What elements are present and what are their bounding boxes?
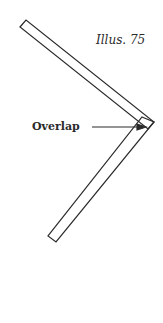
illustration-caption: Illus. 75 bbox=[96, 33, 145, 47]
lower-board bbox=[48, 117, 154, 242]
angle-joint-diagram bbox=[0, 0, 163, 323]
overlap-label: Overlap bbox=[32, 120, 80, 133]
overlap-arrow-head bbox=[137, 124, 146, 130]
